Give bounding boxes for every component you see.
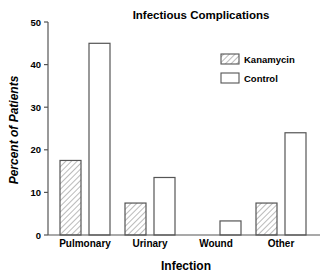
chart-title: Infectious Complications [133, 9, 270, 21]
x-axis-label: Infection [161, 259, 211, 273]
legend-label-control: Control [244, 73, 278, 84]
y-tick-label: 0 [36, 230, 41, 241]
x-axis: PulmonaryUrinaryWoundOther [48, 235, 320, 249]
y-axis: 01020304050 [30, 17, 48, 241]
x-tick-label: Wound [199, 238, 233, 249]
x-tick-label: Urinary [132, 238, 167, 249]
legend-swatch-kanamycin [221, 54, 239, 64]
y-tick-label: 10 [30, 187, 41, 198]
x-tick-label: Other [268, 238, 295, 249]
bar-control-urinary [154, 177, 175, 235]
bar-kanamycin-other [256, 203, 277, 235]
bar-chart: Infectious Complications 01020304050 Pul… [0, 0, 324, 276]
x-tick-label: Pulmonary [59, 238, 111, 249]
legend: KanamycinControl [221, 54, 295, 84]
bar-control-pulmonary [89, 43, 110, 235]
y-tick-label: 20 [30, 144, 41, 155]
y-tick-label: 50 [30, 17, 41, 28]
bar-control-wound [220, 221, 241, 235]
bar-kanamycin-pulmonary [60, 160, 81, 235]
y-tick-label: 30 [30, 102, 41, 113]
y-tick-label: 40 [30, 59, 41, 70]
legend-swatch-control [221, 73, 239, 83]
bar-control-other [285, 133, 306, 235]
bar-kanamycin-urinary [125, 203, 146, 235]
y-axis-label: Percent of Patients [7, 75, 21, 184]
legend-label-kanamycin: Kanamycin [244, 54, 295, 65]
